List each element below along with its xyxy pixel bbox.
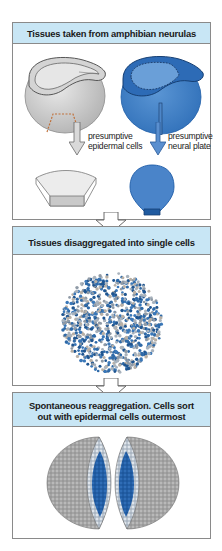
panel-body <box>13 427 210 538</box>
panel-title-line2: out with epidermal cells outermost <box>38 411 186 422</box>
panel-title-line1: Spontaneous reaggregation. Cells sort <box>29 400 194 411</box>
label-presumptive-neural-plate: presumptive neural plate <box>168 132 213 151</box>
panel-title: Tissues taken from amphibian neurulas <box>13 23 210 44</box>
arrow-down-blue-icon <box>150 122 166 156</box>
panel-body <box>13 255 210 385</box>
neurula-gray-icon <box>21 48 111 134</box>
panel-disaggregated: Tissues disaggregated into single cells <box>12 226 211 386</box>
panel-title-text: Tissues taken from amphibian neurulas <box>27 28 196 39</box>
panel-title: Spontaneous reaggregation. Cells sort ou… <box>13 393 210 427</box>
label-presumptive-epidermal: presumptive epidermal cells <box>88 132 142 151</box>
label-line: epidermal cells <box>88 142 142 152</box>
panel-title: Tissues disaggregated into single cells <box>13 227 210 255</box>
cell-suspension-sphere-icon <box>59 271 165 375</box>
panel-title-text: Tissues disaggregated into single cells <box>28 237 195 248</box>
epidermal-tissue-piece-icon <box>34 166 100 212</box>
neural-plate-tissue-piece-icon <box>126 163 178 217</box>
label-line: neural plate <box>168 142 213 152</box>
panel-reaggregation: Spontaneous reaggregation. Cells sort ou… <box>12 392 211 539</box>
panel-body: presumptive epidermal cells presumptive … <box>13 44 210 219</box>
reaggregate-halves-icon <box>43 433 183 533</box>
panel-tissues-taken: Tissues taken from amphibian neurulas <box>12 22 211 220</box>
arrow-down-gray-icon <box>69 122 85 156</box>
